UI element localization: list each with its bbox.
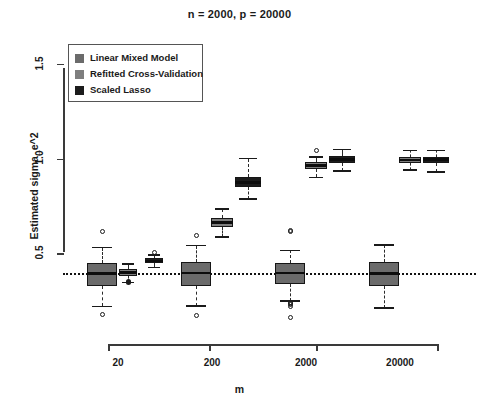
boxplot-cap-upper: [427, 150, 444, 152]
boxplot-chart: n = 2000, p = 20000 0.51.01.5 Estimated …: [0, 0, 479, 409]
x-axis-tick: [316, 344, 318, 351]
boxplot-whisker-upper: [290, 250, 291, 262]
boxplot-cap-upper: [186, 245, 206, 247]
boxplot-median-line: [235, 181, 261, 184]
boxplot-whisker-upper: [384, 245, 385, 262]
boxplot-median-line: [329, 158, 355, 161]
boxplot-cap-lower: [92, 306, 112, 308]
boxplot-median-line: [119, 271, 137, 274]
boxplot-whisker-lower: [102, 286, 103, 306]
boxplot-median-line: [275, 272, 305, 275]
boxplot-whisker-upper: [196, 246, 197, 262]
boxplot-cap-lower: [403, 169, 418, 171]
boxplot-whisker-upper: [222, 209, 223, 218]
boxplot-whisker-upper: [102, 248, 103, 263]
boxplot-outlier: [100, 312, 105, 317]
y-axis-tick: [57, 159, 64, 161]
y-axis-tick: [57, 253, 64, 255]
boxplot-outlier: [126, 280, 131, 285]
y-axis-tick: [57, 64, 64, 66]
boxplot-outlier: [314, 148, 319, 153]
x-axis-tick-label: 20000: [370, 357, 430, 368]
boxplot-whisker-lower: [196, 286, 197, 306]
chart-legend: Linear Mixed Model Refitted Cross-Valida…: [68, 44, 203, 102]
boxplot-median-line: [181, 272, 211, 275]
boxplot-cap-upper: [239, 158, 256, 160]
x-axis-line: [108, 344, 438, 346]
boxplot-cap-upper: [333, 149, 350, 151]
boxplot-cap-lower: [333, 170, 350, 172]
boxplot-whisker-upper: [248, 159, 249, 177]
legend-swatch-icon: [75, 86, 84, 95]
chart-title: n = 2000, p = 20000: [0, 8, 479, 20]
x-axis-tick: [209, 344, 211, 351]
y-axis-tick-label: 1.5: [34, 46, 45, 80]
boxplot-median-line: [87, 272, 117, 275]
boxplot-cap-lower: [186, 305, 206, 307]
boxplot-whisker-upper: [410, 150, 411, 157]
boxplot-median-line: [369, 272, 399, 275]
boxplot-cap-lower: [427, 171, 444, 173]
boxplot-cap-lower: [239, 198, 256, 200]
boxplot-cap-lower: [374, 307, 394, 309]
boxplot-median-line: [423, 158, 449, 161]
legend-item: Refitted Cross-Validation: [75, 66, 196, 82]
boxplot-cap-lower: [215, 236, 230, 238]
legend-item-label: Linear Mixed Model: [90, 53, 178, 63]
legend-item-label: Scaled Lasso: [90, 85, 151, 95]
x-axis-label: m: [0, 383, 479, 395]
legend-item: Scaled Lasso: [75, 82, 196, 98]
boxplot-median-line: [305, 164, 327, 167]
x-axis-tick-label: 20: [88, 357, 148, 368]
x-axis-tick-label: 2000: [276, 357, 336, 368]
boxplot-cap-upper: [215, 208, 230, 210]
x-axis-end-tick: [108, 344, 110, 351]
boxplot-median-line: [145, 260, 163, 263]
boxplot-whisker-lower: [384, 286, 385, 308]
boxplot-cap-lower: [148, 267, 160, 269]
boxplot-cap-upper: [374, 244, 394, 246]
boxplot-cap-upper: [122, 263, 134, 265]
y-axis-label: Estimated sigma_e^2: [28, 116, 40, 256]
boxplot-median-line: [211, 221, 233, 224]
legend-item: Linear Mixed Model: [75, 50, 196, 66]
x-axis-tick-label: 200: [182, 357, 242, 368]
boxplot-outlier: [194, 233, 199, 238]
x-axis-end-tick: [437, 344, 439, 351]
boxplot-median-line: [399, 159, 421, 162]
boxplot-whisker-lower: [248, 187, 249, 199]
boxplot-cap-upper: [280, 250, 300, 252]
legend-item-label: Refitted Cross-Validation: [90, 69, 203, 79]
boxplot-cap-upper: [92, 247, 112, 249]
legend-swatch-icon: [75, 54, 84, 63]
boxplot-whisker-lower: [290, 284, 291, 302]
legend-swatch-icon: [75, 70, 84, 79]
boxplot-outlier: [194, 313, 199, 318]
boxplot-cap-upper: [309, 156, 324, 158]
boxplot-outlier: [152, 250, 157, 255]
boxplot-outlier: [100, 229, 105, 234]
boxplot-outlier: [288, 229, 293, 234]
boxplot-outlier: [288, 315, 293, 320]
boxplot-cap-lower: [309, 177, 324, 179]
boxplot-outlier: [288, 300, 293, 305]
boxplot-cap-upper: [403, 150, 418, 152]
